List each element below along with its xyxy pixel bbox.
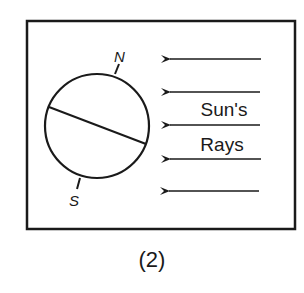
north-pole-label: N xyxy=(114,48,125,65)
south-pole-label: S xyxy=(69,192,79,209)
earth-globe: N S xyxy=(45,48,149,209)
equator-line xyxy=(49,107,146,144)
south-axis-tick xyxy=(77,178,80,189)
sun-rays: Sun's Rays xyxy=(169,59,261,191)
sun-rays-label-line1: Sun's xyxy=(201,99,248,120)
sun-rays-label-line2: Rays xyxy=(200,134,243,155)
figure-caption: (2) xyxy=(0,247,304,273)
north-axis-tick xyxy=(115,64,119,74)
